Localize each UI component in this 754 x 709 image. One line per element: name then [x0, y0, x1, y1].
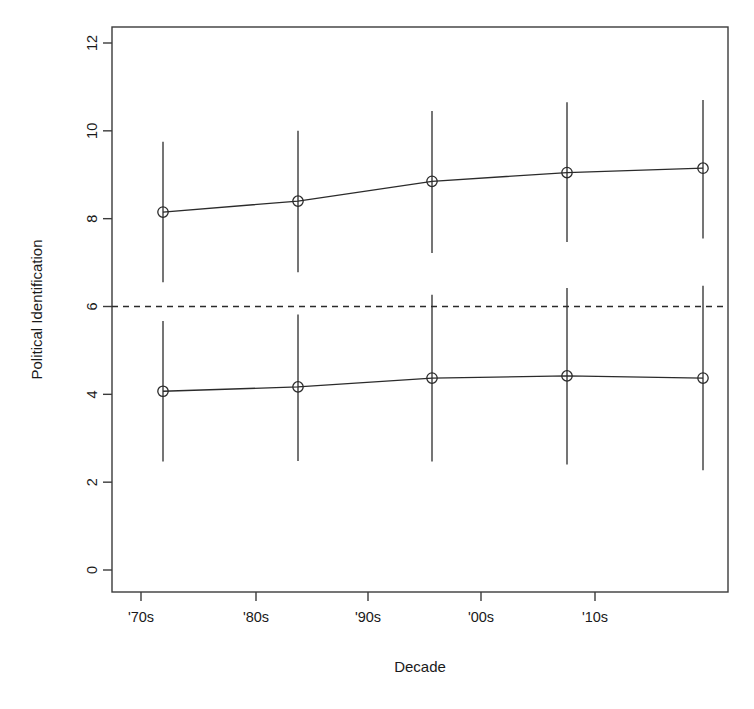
x-axis-tick-label: '90s — [355, 609, 381, 625]
series-line — [163, 168, 703, 212]
x-axis-title: Decade — [394, 658, 446, 675]
data-series — [158, 100, 708, 282]
y-axis-tick-label: 6 — [84, 302, 100, 310]
x-axis-tick-label: '10s — [582, 609, 608, 625]
x-axis-tick-label: '70s — [128, 609, 154, 625]
data-series-group — [112, 100, 728, 470]
y-axis-tick-label: 10 — [84, 123, 100, 139]
plot-box — [112, 27, 728, 592]
y-axis-tick-label: 0 — [84, 566, 100, 574]
axes-group — [103, 27, 728, 601]
chart-figure: 024681012'70s'80s'90s'00s'10sDecadePolit… — [0, 0, 754, 709]
x-axis-tick-label: '00s — [468, 609, 494, 625]
x-axis-tick-label: '80s — [243, 609, 269, 625]
plot-canvas: 024681012'70s'80s'90s'00s'10sDecadePolit… — [0, 0, 754, 709]
y-axis-tick-label: 2 — [84, 478, 100, 486]
axis-labels-group: 024681012'70s'80s'90s'00s'10sDecadePolit… — [28, 35, 609, 675]
y-axis-tick-label: 4 — [84, 390, 100, 398]
y-axis-tick-label: 8 — [84, 215, 100, 223]
y-axis-title: Political Identification — [28, 239, 45, 379]
y-axis-tick-label: 12 — [84, 35, 100, 51]
data-series — [158, 286, 708, 470]
